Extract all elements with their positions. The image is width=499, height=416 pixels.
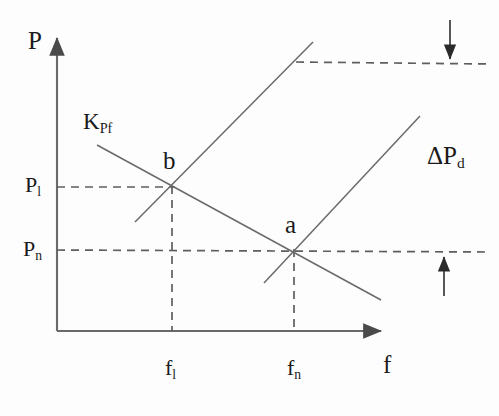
x-tick-fn-sub: n [294,367,301,382]
delta-pd-label: ΔPd [427,143,465,168]
droop-curve-K-Pf [97,145,381,300]
point-label-b: b [163,148,176,173]
x-tick-fl-sub: l [172,367,176,382]
y-tick-pn-main: P [23,236,35,261]
axes-group [57,38,381,331]
x-axis-title: f [383,352,391,377]
figure-canvas: P f Pl Pn fl fn b a KPf ΔPd [0,0,499,416]
load-line-original [264,116,420,283]
curve-label-k-pf-sub: Pf [100,120,113,136]
y-tick-pl-sub: l [37,184,41,199]
x-tick-label-fl: fl [165,357,176,379]
point-label-a: a [285,212,296,237]
curve-label-k-pf-main: K [83,109,100,134]
x-tick-label-fn: fn [287,357,301,379]
upper-horizontal-dashed [296,62,489,64]
y-axis-title: P [28,28,42,53]
curves-group [97,42,420,300]
delta-pd-sub: d [457,154,465,171]
delta-pd-main: ΔP [427,142,457,169]
diagram-svg [0,0,499,416]
dashed-guides-group [57,62,489,331]
y-tick-pl-main: P [25,172,37,197]
load-line-shifted [135,42,313,222]
pn-horizontal-dashed [57,250,489,252]
y-tick-label-pn: Pn [23,238,42,260]
y-tick-label-pl: Pl [25,174,41,196]
curve-label-k-pf: KPf [83,110,112,133]
y-tick-pn-sub: n [35,248,42,263]
